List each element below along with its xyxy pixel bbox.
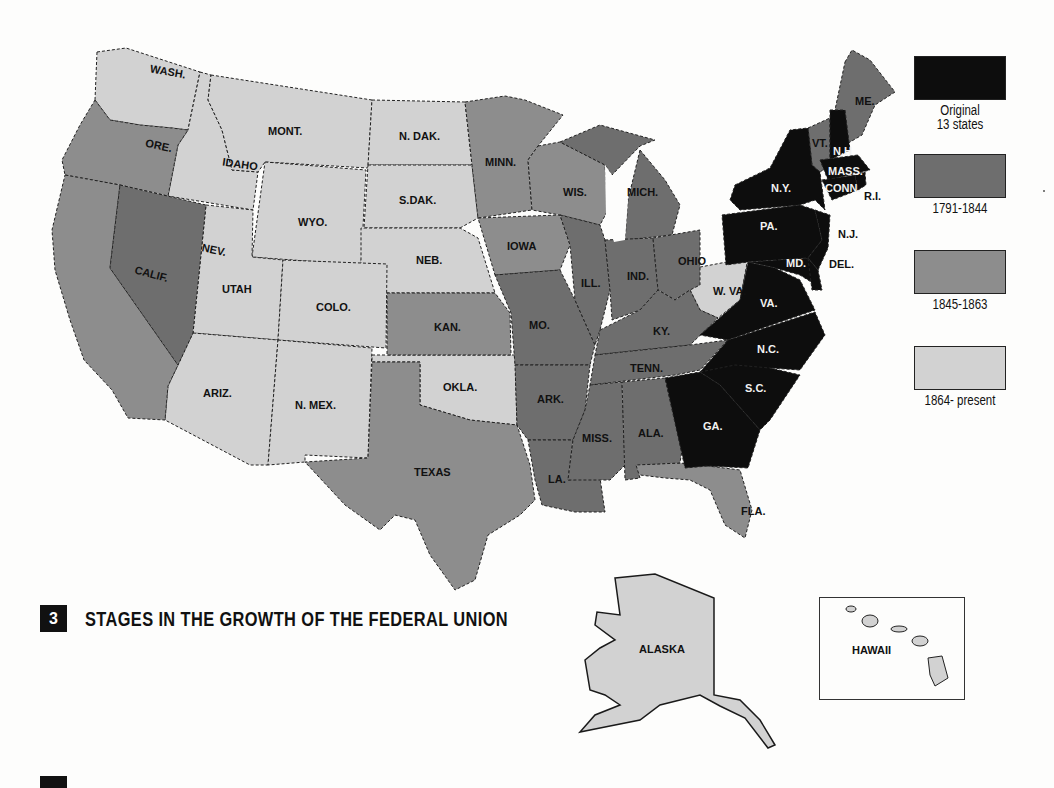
label-mass: MASS. (828, 165, 863, 177)
label-ndak: N. DAK. (399, 130, 440, 142)
label-ind: IND. (627, 270, 649, 282)
label-ny: N.Y. (771, 182, 791, 194)
label-okla: OKLA. (443, 381, 477, 393)
state-pa (722, 205, 822, 265)
label-texas: TEXAS (414, 466, 451, 478)
label-wva: W. VA. (713, 285, 746, 297)
label-ark: ARK. (537, 393, 564, 405)
label-mich: MICH. (627, 186, 658, 198)
legend-label: 1791-1844 (922, 201, 997, 215)
label-miss: MISS. (582, 432, 612, 444)
label-fla: FLA. (741, 505, 765, 517)
state-wyo (252, 162, 366, 265)
label-va: VA. (760, 297, 778, 309)
label-vt: VT. (812, 137, 828, 149)
legend-label: 1864- present (922, 393, 997, 407)
figure-title: STAGES IN THE GROWTH OF THE FEDERAL UNIO… (85, 607, 508, 631)
label-sdak: S.DAK. (399, 194, 436, 206)
legend-swatch (914, 250, 1006, 294)
label-colo: COLO. (316, 301, 351, 313)
state-fla (622, 463, 752, 538)
label-sc: S.C. (745, 382, 766, 394)
legend-item-1864-present: 1864- present (914, 346, 1006, 407)
label-me: ME. (855, 95, 875, 107)
label-mo: MO. (529, 319, 550, 331)
legend-label: Original (922, 103, 997, 117)
legend-swatch (914, 346, 1006, 390)
hawaii-inset-frame (819, 597, 965, 700)
label-la: LA. (548, 473, 566, 485)
label-nmex: N. MEX. (295, 399, 336, 411)
next-figure-marker (40, 776, 67, 788)
label-ariz: ARIZ. (203, 387, 232, 399)
label-md: MD. (786, 257, 806, 269)
label-minn: MINN. (485, 156, 516, 168)
label-ky: KY. (653, 325, 670, 337)
label-conn: CONN. (825, 182, 860, 194)
label-del: DEL. (829, 258, 854, 270)
label-nj: N.J. (838, 228, 858, 240)
label-alaska: ALASKA (639, 643, 685, 655)
label-iowa: IOWA (507, 240, 536, 252)
label-ri: R.I. (864, 190, 881, 202)
legend-swatch (914, 56, 1006, 100)
label-wyo: WYO. (298, 216, 327, 228)
label-utah: UTAH (222, 283, 252, 295)
figure-number: 3 (40, 605, 67, 632)
legend-item-1845-1863: 1845-1863 (914, 250, 1006, 311)
label-ala: ALA. (638, 427, 664, 439)
state-alaska (580, 574, 775, 748)
label-wis: WIS. (563, 186, 587, 198)
figure-caption: 3 STAGES IN THE GROWTH OF THE FEDERAL UN… (40, 605, 627, 632)
legend-swatch (914, 154, 1006, 198)
label-tenn: TENN. (630, 362, 663, 374)
speck (1043, 190, 1045, 192)
label-kan: KAN. (434, 321, 461, 333)
legend-item-original: Original 13 states (914, 56, 1006, 131)
lake-michigan (605, 165, 628, 242)
label-neb: NEB. (416, 254, 442, 266)
label-pa: PA. (760, 220, 778, 232)
label-nh: N.H (833, 145, 852, 157)
label-ohio: OHIO (678, 255, 707, 267)
legend-item-1791-1844: 1791-1844 (914, 154, 1006, 215)
legend-label: 1845-1863 (922, 297, 997, 311)
label-mont: MONT. (268, 125, 302, 137)
state-wash (95, 48, 200, 130)
label-ill: ILL. (581, 277, 601, 289)
label-ga: GA. (703, 420, 723, 432)
label-nc: N.C. (757, 343, 779, 355)
legend-label: 13 states (922, 117, 997, 131)
